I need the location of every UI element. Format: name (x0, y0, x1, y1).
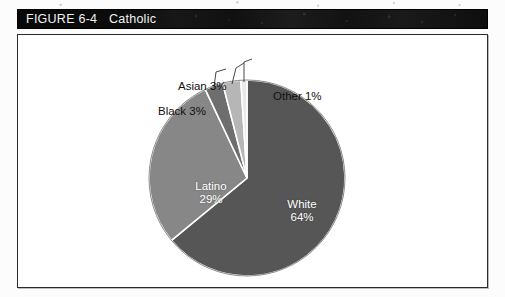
pie-label-latino: Latino 29% (176, 180, 246, 206)
pie-label-latino-name: Latino (176, 180, 246, 193)
figure-header-bar: FIGURE 6-4 Catholic (17, 9, 488, 29)
pie-label-white-name: White (272, 198, 332, 211)
leader-line-other (244, 59, 252, 82)
chart-frame: White 64% Latino 29% Asian 3% Black 3% O… (17, 34, 488, 288)
pie-label-white: White 64% (272, 198, 332, 224)
pie-label-latino-value: 29% (176, 193, 246, 206)
pie-chart (18, 35, 489, 289)
pie-chart-svg (18, 35, 489, 289)
pie-label-other: Other 1% (273, 90, 322, 103)
scan-artifact-top (0, 0, 505, 8)
pie-label-black: Black 3% (158, 105, 206, 118)
page-root: FIGURE 6-4 Catholic (0, 0, 505, 297)
pie-label-white-value: 64% (272, 211, 332, 224)
figure-title-label: Catholic (109, 12, 156, 26)
figure-number-label: FIGURE 6-4 (26, 12, 97, 26)
pie-label-asian: Asian 3% (178, 80, 227, 93)
